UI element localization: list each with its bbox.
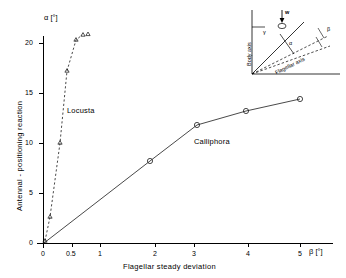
series-line-locusta: [45, 35, 82, 241]
series-label-locusta: Locusta: [67, 107, 95, 115]
series-markers-locusta: [43, 32, 90, 242]
series-markers-calliphora: [147, 96, 302, 163]
chart-figure: 20 15 10 5 0 α [°] Antennal - positionin…: [0, 0, 346, 278]
inset-body-axis-label: Body axis: [246, 42, 252, 66]
inset-diagram: Body axis Flagellar axis w γ α β: [232, 4, 344, 88]
series-label-calliphora: Calliphora: [194, 138, 230, 146]
inset-angle-alpha-label: α: [289, 40, 292, 46]
inset-wind-label: w: [285, 9, 289, 15]
inset-angle-beta-label: β: [327, 26, 330, 32]
inset-angle-gamma-label: γ: [263, 29, 266, 35]
series-line-calliphora: [44, 99, 300, 243]
